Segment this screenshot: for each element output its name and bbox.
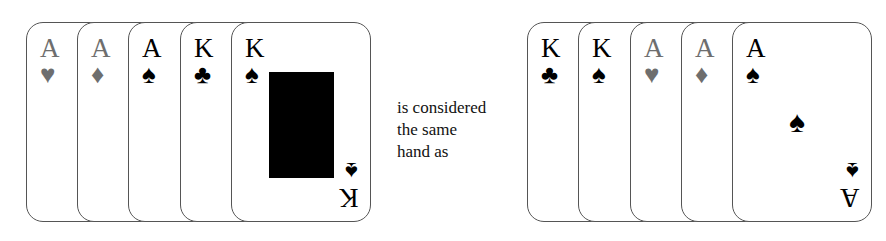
card-rank: A xyxy=(695,35,715,62)
card-rank: K xyxy=(541,35,561,62)
card-rank: A xyxy=(644,35,664,62)
card-rank-inverted: A xyxy=(840,184,860,211)
spade-icon: ♠ xyxy=(592,62,606,88)
card-rank: A xyxy=(746,35,766,62)
right-hand: K ♣ K ♠ A ♥ A ♦ A ♠ ♠ ♠ A xyxy=(0,0,886,241)
club-icon: ♣ xyxy=(541,62,558,88)
spade-icon: ♠ xyxy=(746,62,760,88)
spade-icon: ♠ xyxy=(789,107,805,137)
diamond-icon: ♦ xyxy=(695,62,708,88)
spade-icon: ♠ xyxy=(846,159,859,183)
card-ace-of-spades: A ♠ ♠ ♠ A xyxy=(732,22,872,222)
heart-icon: ♥ xyxy=(644,62,659,88)
card-rank: K xyxy=(592,35,612,62)
